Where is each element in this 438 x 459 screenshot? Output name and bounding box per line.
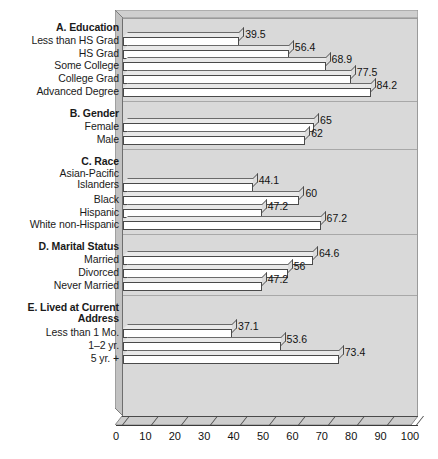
- bar-value-label: 39.5: [245, 29, 265, 40]
- group-heading-a: A. Education: [0, 22, 119, 33]
- x-tick-label: 30: [198, 430, 210, 442]
- x-tick-label: 90: [374, 430, 386, 442]
- bar-side-face: [314, 113, 319, 127]
- x-tick-label: 40: [227, 430, 239, 442]
- bar-value-label: 68.9: [332, 54, 352, 65]
- bar: [123, 88, 371, 97]
- bar-side-face: [239, 27, 244, 41]
- category-label: HS Grad: [0, 48, 119, 59]
- x-axis-line: [116, 425, 418, 426]
- group-heading-c: C. Race: [0, 156, 119, 167]
- category-label: Black: [0, 194, 119, 205]
- category-label: 1–2 yr.: [0, 340, 119, 351]
- category-label: Some College: [0, 60, 119, 71]
- category-label: Asian-Pacific Islanders: [0, 168, 119, 190]
- category-label: Male: [0, 134, 119, 145]
- bar-side-face: [371, 78, 376, 92]
- bar-value-label: 84.2: [377, 80, 397, 91]
- category-label: Advanced Degree: [0, 86, 119, 97]
- bar-side-face: [313, 246, 318, 260]
- bar-value-label: 65: [320, 115, 332, 126]
- category-label: Less than HS Grad: [0, 35, 119, 46]
- x-tick-label: 20: [169, 430, 181, 442]
- bar-side-face: [321, 211, 326, 225]
- category-label: Female: [0, 121, 119, 132]
- bar: [123, 282, 262, 291]
- bar-value-label: 56: [294, 261, 306, 272]
- bar-value-label: 47.2: [268, 274, 288, 285]
- section-separator: [123, 101, 417, 102]
- category-label: Divorced: [0, 267, 119, 278]
- bar-value-label: 67.2: [327, 213, 347, 224]
- bar-front-face: [123, 221, 321, 230]
- x-tick-label: 50: [257, 430, 269, 442]
- category-label: White non-Hispanic: [0, 219, 119, 230]
- category-label: Hispanic: [0, 207, 119, 218]
- group-heading-d: D. Marital Status: [0, 241, 119, 252]
- x-tick-label: 100: [401, 430, 419, 442]
- bar-value-label: 56.4: [295, 42, 315, 53]
- section-separator: [123, 295, 417, 296]
- section-separator: [123, 234, 417, 235]
- group-heading-e: E. Lived at Current Address: [0, 302, 119, 324]
- category-label: Married: [0, 254, 119, 265]
- bar-side-face: [351, 65, 356, 79]
- x-tick-label: 70: [316, 430, 328, 442]
- x-tick-label: 0: [113, 430, 119, 442]
- bar-chart: A. EducationLess than HS GradHS GradSome…: [0, 0, 438, 459]
- bar-value-label: 62: [311, 128, 323, 139]
- bar-value-label: 53.6: [287, 334, 307, 345]
- group-heading-b: B. Gender: [0, 108, 119, 119]
- bar-value-label: 47.2: [268, 201, 288, 212]
- bar-side-face: [299, 186, 304, 200]
- plot-top-bevel: [115, 10, 418, 18]
- bar-front-face: [123, 282, 262, 291]
- bar: [123, 136, 305, 145]
- bar-side-face: [289, 40, 294, 54]
- bar-value-label: 60: [305, 188, 317, 199]
- bar-side-face: [326, 52, 331, 66]
- bar-side-face: [281, 332, 286, 346]
- bar-value-label: 73.4: [345, 347, 365, 358]
- category-label: College Grad: [0, 73, 119, 84]
- bar-front-face: [123, 136, 305, 145]
- bar-side-face: [339, 345, 344, 359]
- category-label-column: A. EducationLess than HS GradHS GradSome…: [0, 0, 119, 459]
- bar-value-label: 37.1: [238, 321, 258, 332]
- bar-value-label: 64.6: [319, 248, 339, 259]
- bar: [123, 355, 339, 364]
- bar-front-face: [123, 355, 339, 364]
- bar: [123, 221, 321, 230]
- bar-side-face: [253, 173, 258, 187]
- bar-side-face: [232, 319, 237, 333]
- x-tick-label: 80: [345, 430, 357, 442]
- x-tick-label: 60: [286, 430, 298, 442]
- axis-baseline: [122, 416, 418, 417]
- category-label: Less than 1 Mo.: [0, 327, 119, 338]
- axis-floor: [115, 416, 418, 425]
- bar-value-label: 77.5: [357, 67, 377, 78]
- category-label: Never Married: [0, 280, 119, 291]
- bar-value-label: 44.1: [259, 175, 279, 186]
- section-separator: [123, 149, 417, 150]
- bar-front-face: [123, 88, 371, 97]
- x-tick-label: 10: [139, 430, 151, 442]
- category-label: 5 yr. +: [0, 353, 119, 364]
